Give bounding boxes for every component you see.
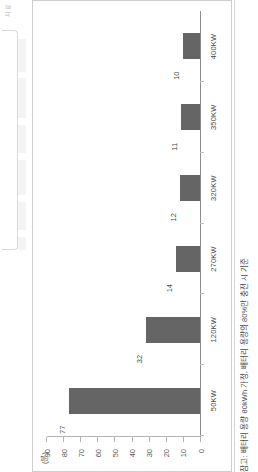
y-axis-tick-label: 10	[179, 449, 188, 457]
figure-header-band: 자료	[0, 0, 28, 258]
x-axis-tick	[200, 152, 204, 153]
bar-series: 7750KW32120KW14270KW12320KW11350KW10400K…	[47, 11, 200, 436]
plot-area: 0102030405060708090 7750KW32120KW14270KW…	[47, 11, 201, 437]
y-axis-tick-label: 0	[196, 449, 205, 453]
x-axis-tick	[200, 223, 204, 224]
bar-value-label: 10	[172, 72, 181, 80]
y-axis-tick-label: 30	[145, 449, 154, 457]
x-axis-line	[200, 11, 201, 437]
x-axis-category-label: 270KW	[209, 246, 218, 272]
y-axis-tick-label: 20	[162, 449, 171, 457]
y-axis-tick: 70	[80, 437, 81, 442]
y-axis-tick-label: 70	[76, 449, 85, 457]
bar-slot: 11350KW	[47, 82, 200, 153]
bar-slot: 32120KW	[47, 294, 200, 365]
y-axis-tick-label: 90	[42, 449, 51, 457]
y-axis-tick: 0	[200, 437, 201, 442]
bar[interactable]	[176, 246, 200, 272]
bar-value-label: 12	[169, 213, 178, 221]
x-axis-tick	[200, 293, 204, 294]
y-axis-tick: 20	[166, 437, 167, 442]
bar-value-label: 14	[165, 284, 174, 292]
x-axis-tick	[200, 435, 204, 436]
x-axis-category-label: 50KW	[209, 390, 218, 411]
y-axis-tick: 80	[63, 437, 64, 442]
x-axis-category-label: 320KW	[209, 175, 218, 201]
bar[interactable]	[69, 388, 200, 414]
bar-value-label: 77	[58, 426, 67, 434]
x-axis-category-label: 120KW	[209, 317, 218, 343]
bar-slot: 10400KW	[47, 11, 200, 82]
x-axis-tick	[200, 81, 204, 82]
y-axis-tick: 60	[97, 437, 98, 442]
bar[interactable]	[146, 317, 200, 343]
y-axis-tick: 40	[132, 437, 133, 442]
x-axis-tick	[200, 364, 204, 365]
source-label: 자료	[3, 4, 12, 17]
bar-slot: 7750KW	[47, 365, 200, 436]
y-axis-line	[47, 436, 201, 437]
y-axis-tick-label: 40	[128, 449, 137, 457]
y-axis-tick: 30	[149, 437, 150, 442]
bar[interactable]	[180, 175, 200, 201]
ghost-panel	[2, 30, 18, 250]
bar-slot: 14270KW	[47, 224, 200, 295]
y-axis-tick: 10	[183, 437, 184, 442]
x-axis-category-label: 400KW	[209, 34, 218, 60]
bar-value-label: 11	[170, 143, 179, 151]
y-axis-tick: 50	[114, 437, 115, 442]
bar[interactable]	[183, 33, 200, 59]
footnote-divider	[234, 0, 235, 472]
bar-slot: 12320KW	[47, 153, 200, 224]
ghost-caption-text	[18, 30, 26, 250]
y-axis-tick-label: 50	[110, 449, 119, 457]
chart-panel: (분) 0102030405060708090 7750KW32120KW142…	[32, 0, 232, 472]
y-axis-tick: 90	[46, 437, 47, 442]
y-axis-tick-label: 60	[93, 449, 102, 457]
y-axis-tick-label: 80	[59, 449, 68, 457]
bar[interactable]	[181, 104, 200, 130]
x-axis-category-label: 350KW	[209, 104, 218, 130]
footnote-text: 참고: 배터리 용량 80kWh 가정, 배터리 용량의 80%만 충전 시 기…	[238, 0, 249, 472]
rotated-figure-stage: 자료 (분) 0102030405060708090 7750KW32120KW…	[0, 0, 258, 472]
bar-value-label: 32	[135, 355, 144, 363]
